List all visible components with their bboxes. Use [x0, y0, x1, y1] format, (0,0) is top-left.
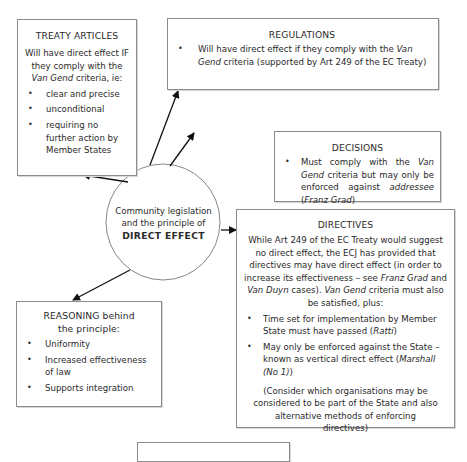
list-item: requiring no further action by Member St… — [24, 119, 130, 157]
center-concept-label: Community legislation and the principle … — [107, 205, 220, 242]
decisions-list: Must comply with the Van Gend criteria b… — [281, 156, 434, 206]
list-item: Supports integration — [23, 382, 155, 395]
regulations-box: REGULATIONS Will have direct effect if t… — [167, 18, 439, 90]
directives-box: DIRECTIVES While Art 249 of the EC Treat… — [236, 209, 455, 428]
regulations-list: Will have direct effect if they comply w… — [174, 43, 430, 68]
list-item: Increased effectiveness of law — [23, 354, 155, 379]
directives-conditions-list: Time set for implementation by Member St… — [243, 313, 448, 379]
treaty-articles-title: TREATY ARTICLES — [24, 30, 130, 41]
reasoning-list: Uniformity Increased effectiveness of la… — [23, 338, 155, 394]
list-item: clear and precise — [24, 88, 130, 101]
directives-note: (Consider which organisations may be con… — [243, 385, 448, 435]
reasoning-title: REASONING behind the principle: — [23, 310, 155, 335]
decisions-box: DECISIONS Must comply with the Van Gend … — [274, 131, 441, 202]
regulations-title: REGULATIONS — [174, 29, 430, 40]
list-item: Uniformity — [23, 338, 155, 351]
list-item: unconditional — [24, 103, 130, 116]
empty-bottom-box — [137, 442, 290, 462]
list-item: May only be enforced against the State –… — [243, 341, 448, 379]
list-item: Must comply with the Van Gend criteria b… — [281, 156, 434, 206]
list-item: Time set for implementation by Member St… — [243, 313, 448, 338]
decisions-title: DECISIONS — [281, 142, 434, 153]
treaty-articles-intro: Will have direct effect IF they comply w… — [24, 47, 130, 85]
directives-title: DIRECTIVES — [243, 219, 448, 230]
reasoning-box: REASONING behind the principle: Uniformi… — [16, 301, 162, 407]
list-item: Will have direct effect if they comply w… — [174, 43, 430, 68]
directives-intro: While Art 249 of the EC Treaty would sug… — [243, 234, 448, 310]
treaty-articles-box: TREATY ARTICLES Will have direct effect … — [17, 19, 137, 176]
treaty-articles-criteria-list: clear and precise unconditional requirin… — [24, 88, 130, 157]
